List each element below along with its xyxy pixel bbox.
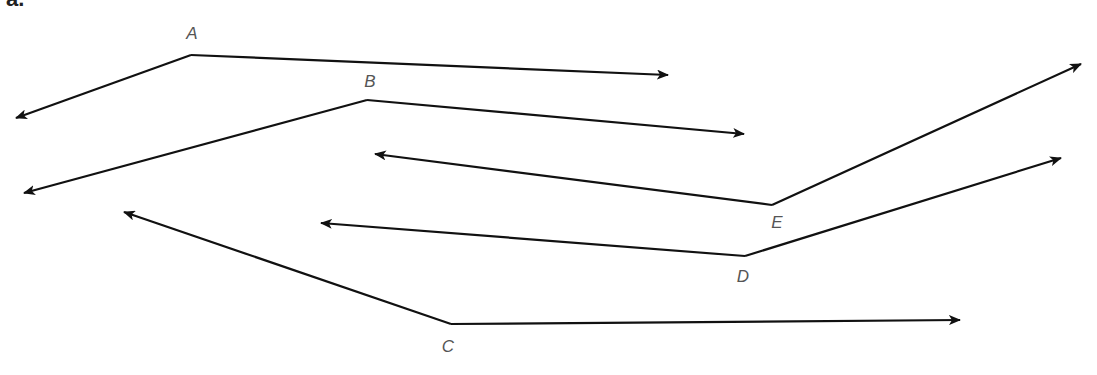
ray-arrow xyxy=(321,223,745,256)
ray-arrow xyxy=(375,154,772,205)
vertex-label-e: E xyxy=(771,214,782,231)
angle-b xyxy=(24,100,744,193)
ray-arrow xyxy=(772,64,1081,205)
vertex-label-a: A xyxy=(186,25,197,42)
ray-arrow xyxy=(16,55,191,118)
vertex-label-d: D xyxy=(737,268,749,285)
ray-arrow xyxy=(451,320,960,324)
ray-arrow xyxy=(191,55,668,75)
ray-arrow xyxy=(24,100,367,193)
vertex-label-c: C xyxy=(442,338,454,355)
ray-arrow xyxy=(367,100,744,134)
angle-a xyxy=(16,55,668,118)
ray-arrow xyxy=(745,158,1061,256)
vertex-label-b: B xyxy=(364,73,375,90)
angle-d xyxy=(321,158,1061,256)
angles-diagram xyxy=(0,0,1097,375)
